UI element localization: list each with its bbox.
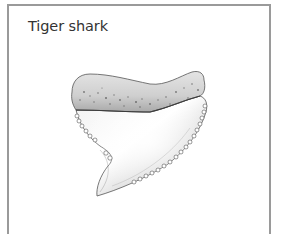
shark-tooth-illustration	[0, 0, 282, 234]
